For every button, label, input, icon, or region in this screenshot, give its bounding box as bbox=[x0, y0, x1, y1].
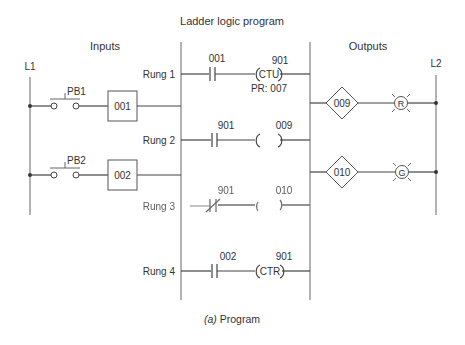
rung-label: Rung 2 bbox=[143, 135, 176, 146]
l2-label: L2 bbox=[430, 58, 442, 69]
input-pb2: PB2 002 bbox=[28, 155, 181, 190]
figure-caption: (a) Program bbox=[204, 313, 260, 325]
rung-3: Rung 3 901 010 bbox=[143, 185, 310, 212]
contact-address: 001 bbox=[209, 53, 226, 64]
switch-terminal bbox=[51, 172, 57, 178]
output-module-label: 010 bbox=[334, 167, 351, 178]
coil-function: CTR bbox=[260, 266, 281, 277]
output-010: 010 G bbox=[310, 156, 438, 188]
ladder-diagram: Ladder logic program Inputs Outputs L1 L… bbox=[0, 0, 465, 345]
rung-2: Rung 2 901 009 bbox=[143, 120, 310, 147]
rung-label: Rung 3 bbox=[143, 201, 176, 212]
pb1-label: PB1 bbox=[67, 86, 86, 97]
contact-address: 901 bbox=[218, 185, 235, 196]
inputs-heading: Inputs bbox=[90, 40, 120, 52]
switch-terminal bbox=[73, 103, 79, 109]
diagram-title: Ladder logic program bbox=[180, 15, 284, 27]
outputs-heading: Outputs bbox=[349, 40, 388, 52]
input-pb1: PB1 001 bbox=[28, 86, 181, 121]
pb2-label: PB2 bbox=[67, 155, 86, 166]
rung-1: Rung 1 001 CTU 901 PR: 007 bbox=[143, 53, 310, 94]
lamp-letter: G bbox=[398, 168, 405, 178]
rung-label: Rung 4 bbox=[143, 266, 176, 277]
output-module-label: 009 bbox=[334, 98, 351, 109]
caption-text: Program bbox=[217, 313, 260, 325]
contact-address: 901 bbox=[218, 120, 235, 131]
input-module-label: 001 bbox=[114, 101, 131, 112]
junction-dot bbox=[434, 170, 438, 174]
contact-address: 002 bbox=[220, 251, 237, 262]
preset-value: PR: 007 bbox=[251, 83, 288, 94]
rung-4: Rung 4 002 CTR 901 bbox=[143, 251, 310, 278]
coil-address: 901 bbox=[276, 251, 293, 262]
coil-address: 010 bbox=[276, 185, 293, 196]
coil-function: CTU bbox=[259, 69, 280, 80]
junction-dot bbox=[434, 101, 438, 105]
input-module-label: 002 bbox=[114, 170, 131, 181]
caption-prefix: (a) bbox=[204, 313, 217, 325]
coil-icon bbox=[256, 134, 260, 147]
output-009: 009 R bbox=[310, 87, 438, 119]
coil-address: 009 bbox=[276, 120, 293, 131]
lamp-letter: R bbox=[398, 99, 405, 109]
coil-address: 901 bbox=[272, 55, 289, 66]
switch-terminal bbox=[51, 103, 57, 109]
rung-label: Rung 1 bbox=[143, 69, 176, 80]
switch-terminal bbox=[73, 172, 79, 178]
coil-icon bbox=[257, 202, 258, 211]
l1-label: L1 bbox=[24, 61, 36, 72]
